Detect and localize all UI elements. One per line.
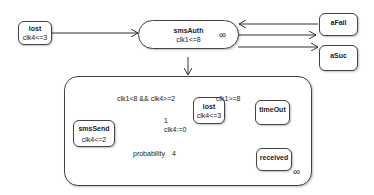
state-name: aFail [331, 18, 347, 27]
state-name: smsSend [78, 124, 109, 133]
infinity-icon: ∞ [293, 167, 300, 177]
state-name: timeOut [259, 105, 285, 114]
guard-label-loop: clk1<8 && clk4>=2 [117, 95, 175, 103]
state-invariant: clk1<=8 [176, 35, 201, 44]
state-received[interactable]: received [256, 148, 292, 171]
state-asuc[interactable]: aSuc [319, 45, 358, 71]
probability-label: probability [133, 150, 165, 158]
reset-label: clk4:=0 [164, 126, 186, 134]
state-name: aSuc [330, 51, 347, 60]
state-afail[interactable]: aFail [319, 13, 358, 36]
state-name: lost [203, 102, 215, 111]
weight-label-4: 4 [172, 150, 176, 158]
state-name: received [260, 153, 288, 162]
state-invariant: clk4<=3 [23, 33, 48, 42]
infinity-icon: ∞ [219, 30, 226, 40]
state-smssend[interactable]: smsSend clk4<=2 [73, 120, 115, 147]
state-timeout[interactable]: timeOut [255, 100, 290, 125]
state-name: lost [29, 24, 41, 33]
state-lost-top[interactable]: lost clk4<=3 [18, 21, 52, 45]
guard-label-timeout: clk1>=8 [216, 95, 241, 103]
state-invariant: clk4<=3 [197, 111, 222, 120]
state-name: smsAuth [174, 26, 204, 35]
weight-label-1: 1 [164, 117, 168, 125]
state-invariant: clk4<=2 [82, 135, 107, 144]
